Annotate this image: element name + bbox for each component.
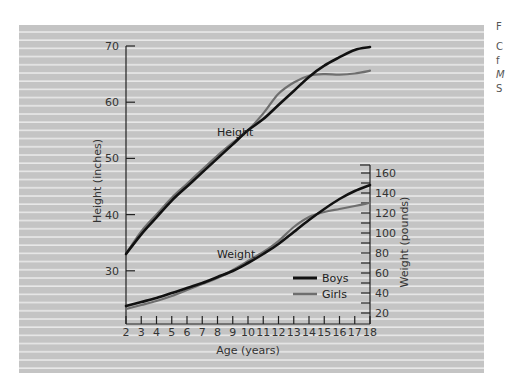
x-axis-tick-label: 17 xyxy=(348,326,362,339)
x-axis-tick-label: 6 xyxy=(184,326,191,339)
x-axis-tick-label: 3 xyxy=(138,326,145,339)
left-axis-tick-label: 50 xyxy=(105,152,119,165)
right-axis-tick-label: 100 xyxy=(375,227,396,240)
left-axis-tick-label: 60 xyxy=(105,96,119,109)
x-axis-tick-label: 14 xyxy=(302,326,316,339)
caption-fragment: S xyxy=(496,82,502,96)
x-axis-tick-label: 2 xyxy=(123,326,130,339)
height-annotation: Height xyxy=(217,126,254,139)
right-axis-title: Weight (pounds) xyxy=(398,197,411,288)
left-axis-tick-label: 40 xyxy=(105,209,119,222)
x-axis-tick-label: 7 xyxy=(199,326,206,339)
caption-fragment: C xyxy=(496,40,503,54)
x-axis-tick-label: 12 xyxy=(272,326,286,339)
left-axis-tick-label: 70 xyxy=(105,40,119,53)
x-axis-tick-label: 5 xyxy=(168,326,175,339)
left-axis-title: Height (inches) xyxy=(91,139,104,223)
right-axis-tick-label: 120 xyxy=(375,207,396,220)
x-axis-tick-label: 8 xyxy=(214,326,221,339)
x-axis-tick-label: 11 xyxy=(256,326,270,339)
x-axis-tick-label: 10 xyxy=(241,326,255,339)
right-axis-tick-label: 160 xyxy=(375,167,396,180)
right-axis-tick-label: 60 xyxy=(375,267,389,280)
right-axis-tick-label: 40 xyxy=(375,287,389,300)
weight-annotation: Weight xyxy=(217,248,256,261)
left-axis-tick-label: 30 xyxy=(105,265,119,278)
x-axis-tick-label: 15 xyxy=(317,326,331,339)
caption-fragment: F xyxy=(496,20,502,34)
x-axis-tick-label: 13 xyxy=(287,326,301,339)
right-axis-tick-label: 140 xyxy=(375,187,396,200)
legend-boys-label: Boys xyxy=(322,272,349,285)
chart-background xyxy=(19,25,484,373)
x-axis-tick-label: 16 xyxy=(333,326,347,339)
right-axis-tick-label: 80 xyxy=(375,247,389,260)
x-axis-tick-label: 18 xyxy=(363,326,377,339)
legend-girls-label: Girls xyxy=(322,288,347,301)
x-axis-title: Age (years) xyxy=(216,344,280,357)
x-axis-tick-label: 4 xyxy=(153,326,160,339)
x-axis-tick-label: 9 xyxy=(229,326,236,339)
caption-fragment: M xyxy=(496,68,505,82)
right-axis-tick-label: 20 xyxy=(375,307,389,320)
caption-fragment: f xyxy=(496,54,500,68)
